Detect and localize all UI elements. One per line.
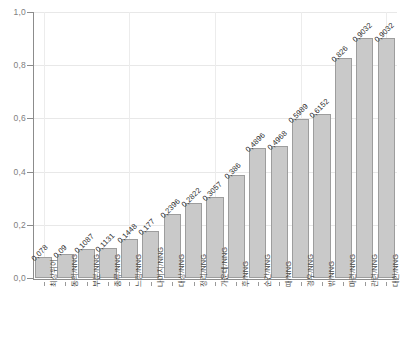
x-axis-tick (279, 282, 280, 286)
x-axis-tick (44, 282, 45, 286)
x-axis-category-label: 밖/NNG (325, 261, 336, 287)
x-axis-category-label: 대상/NNG (175, 254, 186, 287)
x-axis-category-label: 때/NNG (282, 261, 293, 287)
bar-chart: 0,00,20,40,60,81,0 0,0780,090,10870,1131… (0, 0, 409, 354)
x-axis-tick (87, 282, 88, 286)
x-axis-category-label: 순간/NNG (261, 254, 272, 287)
y-axis-tick (27, 65, 34, 66)
x-axis-tick (236, 282, 237, 286)
x-axis-tick (194, 282, 195, 286)
x-axis-tick (301, 282, 302, 286)
x-axis-tick (322, 282, 323, 286)
x-axis-category-label: 동의/NNG (68, 254, 79, 287)
y-axis-tick-label: 0,6 (14, 113, 26, 123)
y-axis-tick-label: 0,2 (14, 220, 26, 230)
x-axis-tick (343, 282, 344, 286)
bar (378, 38, 395, 278)
x-axis-category-label: 마련/NNG (346, 254, 357, 287)
y-axis-tick (27, 12, 34, 13)
y-axis-tick (27, 172, 34, 173)
x-axis-tick (386, 282, 387, 286)
bar (271, 146, 288, 278)
y-axis-tick (27, 225, 34, 226)
x-axis-tick (172, 282, 173, 286)
x-axis-category-label: 부분/NNG (90, 254, 101, 287)
x-axis-category-label: 종류/NNG (111, 254, 122, 287)
x-axis-tick (65, 282, 66, 286)
y-axis-tick-label: 1,0 (14, 7, 26, 17)
y-axis-line (33, 12, 34, 279)
y-axis-tick (27, 118, 34, 119)
x-axis-tick (258, 282, 259, 286)
bar (356, 38, 373, 278)
x-axis-category-label: 느낌/NNG (132, 254, 143, 287)
x-axis-line (33, 279, 399, 280)
x-axis-category-label: 관련/NNG (368, 254, 379, 287)
y-axis-tick-label: 0,0 (14, 273, 26, 283)
x-axis-tick (151, 282, 152, 286)
x-axis-category-label: 정리/NNG (197, 254, 208, 287)
x-axis-category-label: 후/NNG (239, 261, 250, 287)
y-axis-tick-label: 0,4 (14, 167, 26, 177)
x-axis-category-label: 대한/NNG (389, 254, 400, 287)
x-axis-tick (129, 282, 130, 286)
bar (313, 114, 330, 278)
y-axis-tick (27, 278, 34, 279)
x-axis-category-label: 나머지/NNG (154, 247, 165, 287)
x-axis-tick (215, 282, 216, 286)
y-axis-tick-label: 0,8 (14, 60, 26, 70)
x-axis-category-label: 가운데/NNG (218, 247, 229, 287)
x-axis-category-label: 경우/NNG (304, 254, 315, 287)
bar (335, 58, 352, 278)
x-axis-tick (108, 282, 109, 286)
x-axis-category-label: 최상위어 (47, 259, 58, 287)
x-axis-tick (365, 282, 366, 286)
